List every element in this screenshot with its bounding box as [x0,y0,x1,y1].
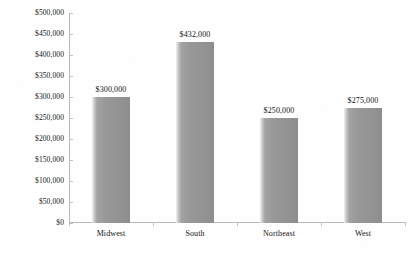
x-axis-category-label: Midwest [71,229,151,239]
y-axis-tick-label: $500,000 [0,9,64,17]
x-axis-category-label: Northeast [239,229,319,239]
y-axis-tick-label: $0 [0,219,64,227]
x-axis-tick-mark [405,222,406,226]
x-axis-tick-mark [321,222,322,226]
y-axis-tick-label: $350,000 [0,72,64,80]
bar [344,108,382,224]
y-axis-tick-label: $50,000 [0,198,64,206]
y-axis-tick-mark [69,118,73,119]
y-axis-tick-mark [69,97,73,98]
x-axis-tick-mark [237,222,238,226]
y-axis-tick-mark [69,76,73,77]
bar-value-label: $275,000 [323,96,403,105]
y-axis-tick-label: $450,000 [0,30,64,38]
y-axis-tick-label: $250,000 [0,114,64,122]
plot-area [69,13,405,223]
x-axis-tick-mark [153,222,154,226]
y-axis-tick-label: $200,000 [0,135,64,143]
bar [92,97,130,223]
bar-value-label: $300,000 [71,85,151,94]
y-axis-tick-mark [69,13,73,14]
y-axis-tick-mark [69,55,73,56]
y-axis-tick-mark [69,202,73,203]
y-axis-tick-mark [69,181,73,182]
y-axis-tick-mark [69,139,73,140]
bar [176,42,214,223]
y-axis-tick-label: $100,000 [0,177,64,185]
bar-value-label: $432,000 [155,30,235,39]
x-axis-category-label: West [323,229,403,239]
x-axis-tick-mark [69,222,70,226]
bar-value-label: $250,000 [239,106,319,115]
bar-chart: $0$50,000$100,000$150,000$200,000$250,00… [0,0,415,255]
y-axis-tick-label: $300,000 [0,93,64,101]
y-axis-tick-mark [69,34,73,35]
y-axis-tick-mark [69,160,73,161]
x-axis-category-label: South [155,229,235,239]
y-axis: $0$50,000$100,000$150,000$200,000$250,00… [0,0,67,255]
y-axis-tick-label: $150,000 [0,156,64,164]
y-axis-tick-label: $400,000 [0,51,64,59]
bar [260,118,298,223]
